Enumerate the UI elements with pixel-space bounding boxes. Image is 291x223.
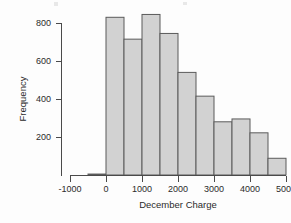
x-axis-tick-label: -1000 <box>58 184 81 194</box>
x-axis-tick-label: 3000 <box>204 184 224 194</box>
histogram-bar <box>124 39 142 175</box>
y-axis-ticks <box>56 23 62 137</box>
histogram-bar <box>232 119 250 175</box>
y-axis-tick-label: 200 <box>36 132 51 142</box>
histogram-bar <box>88 174 106 175</box>
histogram-bar <box>250 133 268 175</box>
histogram-plot: 200400600800 -1000010002000300040005000 … <box>0 0 291 223</box>
x-axis-tick-label: 0 <box>103 184 108 194</box>
scan-speck-icon <box>54 2 58 6</box>
x-axis-ticks <box>70 176 286 182</box>
histogram-bars <box>88 14 286 175</box>
histogram-figure: 200400600800 -1000010002000300040005000 … <box>0 0 291 223</box>
y-axis-tick-label: 800 <box>36 18 51 28</box>
x-axis-tick-label: 1000 <box>132 184 152 194</box>
histogram-bar <box>178 72 196 175</box>
x-axis-title: December Charge <box>139 199 217 210</box>
histogram-bar <box>160 33 178 175</box>
x-axis-tick-label: 4000 <box>240 184 260 194</box>
x-axis-tick-label: 2000 <box>168 184 188 194</box>
y-axis-tick-label: 600 <box>36 56 51 66</box>
histogram-bar <box>268 158 286 175</box>
scan-speck-icon <box>183 2 187 5</box>
histogram-bar <box>142 14 160 175</box>
x-axis-tick-labels: -1000010002000300040005000 <box>58 184 291 194</box>
x-axis: -1000010002000300040005000 <box>58 176 291 195</box>
histogram-bar <box>106 17 124 175</box>
y-axis: 200400600800 <box>36 18 62 175</box>
histogram-bar <box>214 122 232 175</box>
y-axis-tick-label: 400 <box>36 94 51 104</box>
x-axis-tick-label: 5000 <box>276 184 291 194</box>
y-axis-title: Frequency <box>17 76 28 121</box>
histogram-bar <box>196 96 214 175</box>
y-axis-tick-labels: 200400600800 <box>36 18 51 142</box>
